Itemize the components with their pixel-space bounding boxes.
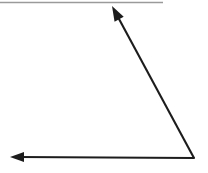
canvas-background [0, 0, 208, 173]
angle-diagram [0, 0, 208, 173]
lower-ray-line [18, 157, 194, 158]
figure-canvas: Angle formed by two rays sharing a commo… [0, 0, 208, 173]
angle-vertex [193, 157, 195, 159]
